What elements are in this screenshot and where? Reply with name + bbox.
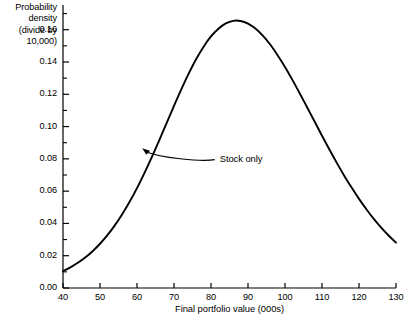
x-tick-label: 90 (233, 292, 263, 302)
annotation-label-stock-only: Stock only (220, 153, 263, 164)
x-tick-label: 80 (196, 292, 226, 302)
x-tick-label: 100 (270, 292, 300, 302)
x-tick-label: 40 (48, 292, 78, 302)
annotation-arrowhead-icon (142, 148, 150, 155)
y-tick-label: 0.10 (27, 121, 57, 131)
density-curve-group (63, 21, 396, 271)
x-tick-label: 120 (344, 292, 374, 302)
probability-density-chart: Probability density (divide by 10,000) 0… (0, 0, 404, 321)
y-tick-label: 0.04 (27, 217, 57, 227)
x-tick-label: 60 (122, 292, 152, 302)
x-tick-label: 110 (307, 292, 337, 302)
x-tick-label: 70 (159, 292, 189, 302)
y-tick-label: 0.12 (27, 88, 57, 98)
y-tick-label: 0.00 (27, 282, 57, 292)
y-axis-ticks (63, 14, 69, 288)
y-tick-label: 0.06 (27, 185, 57, 195)
x-tick-label: 50 (85, 292, 115, 302)
y-tick-label: 0.08 (27, 153, 57, 163)
x-axis-title: Final portfolio value (000s) (63, 303, 396, 314)
annotation-arrow-group (142, 148, 215, 160)
y-tick-label: 0.16 (27, 24, 57, 34)
axis-lines (63, 5, 396, 288)
annotation-arrow (147, 152, 215, 160)
chart-plot-area (0, 0, 404, 321)
x-tick-label: 130 (381, 292, 404, 302)
y-tick-label: 0.14 (27, 56, 57, 66)
x-axis-ticks (63, 283, 396, 288)
y-tick-label: 0.02 (27, 250, 57, 260)
stock-only-curve (63, 21, 396, 271)
